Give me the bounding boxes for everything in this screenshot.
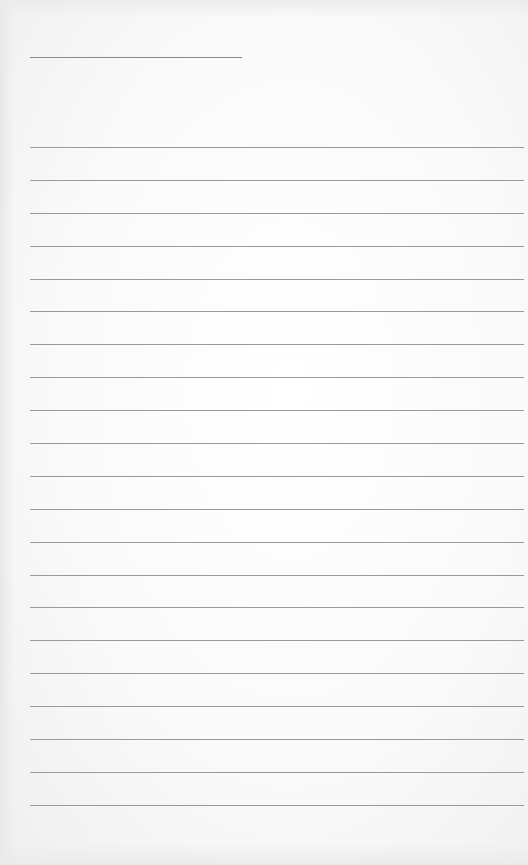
ruled-line-stroke [30,410,524,411]
ruled-line-stroke [30,772,524,773]
ruled-line-stroke [30,673,524,674]
ruled-line-stroke [30,476,524,477]
ruled-line-stroke [30,180,524,181]
ruled-line-stroke [30,542,524,543]
ruled-line[interactable] [30,377,524,410]
ruled-line-stroke [30,509,524,510]
ruled-line[interactable] [30,147,524,180]
ruled-line-stroke [30,344,524,345]
ruled-line[interactable] [30,344,524,377]
ruled-line[interactable] [30,640,524,673]
ruled-line[interactable] [30,509,524,542]
ruled-line[interactable] [30,706,524,739]
ruled-line-stroke [30,640,524,641]
ruled-line[interactable] [30,410,524,443]
ruled-line[interactable] [30,443,524,476]
ruled-lines-area[interactable] [30,147,524,838]
ruled-line[interactable] [30,213,524,246]
ruled-line[interactable] [30,575,524,608]
ruled-line[interactable] [30,805,524,838]
ruled-line[interactable] [30,673,524,706]
ruled-line[interactable] [30,311,524,344]
ruled-line[interactable] [30,542,524,575]
paper-edge-shadow-bottom [0,843,528,865]
ruled-line[interactable] [30,607,524,640]
ruled-line-stroke [30,607,524,608]
ruled-line[interactable] [30,476,524,509]
ruled-line[interactable] [30,246,524,279]
ruled-line-stroke [30,279,524,280]
ruled-line[interactable] [30,739,524,772]
ruled-line-stroke [30,246,524,247]
ruled-line-stroke [30,575,524,576]
ruled-line[interactable] [30,772,524,805]
ruled-line[interactable] [30,180,524,213]
ruled-line-stroke [30,311,524,312]
ruled-line-stroke [30,739,524,740]
ruled-line-stroke [30,147,524,148]
lined-paper-page [0,0,528,865]
title-field[interactable] [30,36,242,56]
paper-edge-shadow-top [0,0,528,18]
title-underline [30,57,242,58]
ruled-line-stroke [30,805,524,806]
ruled-line-stroke [30,706,524,707]
ruled-line-stroke [30,213,524,214]
ruled-line[interactable] [30,279,524,312]
ruled-line-stroke [30,377,524,378]
paper-edge-shadow-left [0,0,14,865]
ruled-line-stroke [30,443,524,444]
